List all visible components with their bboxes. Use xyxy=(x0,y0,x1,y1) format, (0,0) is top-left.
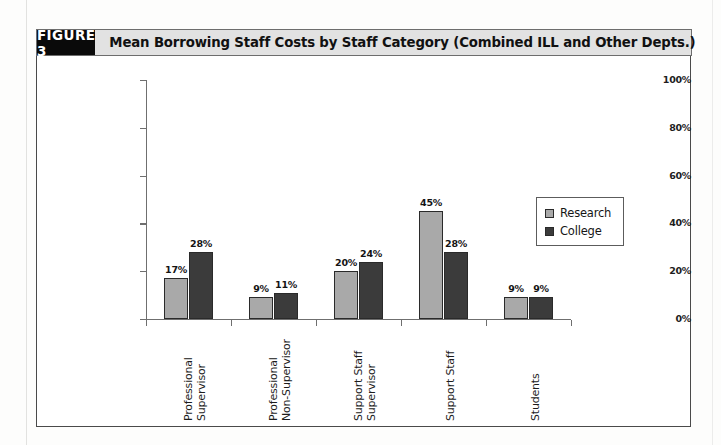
bar-research xyxy=(334,271,358,319)
bar-research xyxy=(504,297,528,319)
x-axis-line xyxy=(146,319,571,320)
legend-swatch-research-icon xyxy=(545,209,554,218)
x-axis-category-label: Professional xyxy=(267,357,280,421)
x-axis-tick-mark xyxy=(231,320,232,326)
y-axis-line xyxy=(146,80,147,320)
x-axis-category-label: Students xyxy=(529,374,542,421)
x-axis-tick-mark xyxy=(316,320,317,326)
legend-item-research: Research xyxy=(545,204,623,222)
y-axis-tick-mark xyxy=(140,176,147,177)
bar-college xyxy=(529,297,553,319)
x-axis-category-label: Professional xyxy=(182,357,195,421)
x-axis-tick-mark xyxy=(486,320,487,326)
legend-item-college: College xyxy=(545,222,623,240)
y-axis-tick-label: 80% xyxy=(635,122,691,133)
legend-swatch-college-icon xyxy=(545,227,554,236)
bar-college xyxy=(359,262,383,319)
bar-college xyxy=(444,252,468,319)
y-axis-tick-mark xyxy=(140,271,147,272)
bar-value-label: 28% xyxy=(436,238,476,249)
bar-research xyxy=(249,297,273,319)
page-scan-edge-right xyxy=(712,0,713,445)
x-axis-category-label: Support Staff xyxy=(444,351,457,421)
x-axis-tick-mark xyxy=(146,320,147,326)
page-scan-edge-left xyxy=(26,0,27,445)
figure-number-badge: FIGURE 3 xyxy=(37,30,95,55)
chart-legend: Research College xyxy=(536,197,624,246)
x-axis-category-label: Support Staff xyxy=(352,351,365,421)
bar-value-label: 11% xyxy=(266,279,306,290)
bar-college xyxy=(274,293,298,319)
bar-chart: 0%20%40%60%80%100% 17%28%9%11%20%24%45%2… xyxy=(36,56,691,427)
x-axis-category-label: Supervisor xyxy=(195,364,208,421)
y-axis-tick-mark xyxy=(140,223,147,224)
y-axis-tick-mark xyxy=(140,128,147,129)
y-axis-tick-mark xyxy=(140,80,147,81)
bar-college xyxy=(189,252,213,319)
x-axis-category-label: Supervisor xyxy=(365,364,378,421)
y-axis-tick-label: 40% xyxy=(635,217,691,228)
x-axis-category-label: Non-Supervisor xyxy=(280,339,293,421)
figure-title: Mean Borrowing Staff Costs by Staff Cate… xyxy=(95,30,695,55)
y-axis-tick-label: 20% xyxy=(635,265,691,276)
y-axis-tick-label: 0% xyxy=(635,313,691,324)
bar-research xyxy=(164,278,188,319)
x-axis-tick-mark xyxy=(401,320,402,326)
bar-value-label: 24% xyxy=(351,248,391,259)
y-axis-tick-label: 100% xyxy=(635,74,691,85)
y-axis-tick-label: 60% xyxy=(635,170,691,181)
figure-header-bar: FIGURE 3 Mean Borrowing Staff Costs by S… xyxy=(36,29,692,56)
x-axis-tick-mark xyxy=(571,320,572,326)
legend-label-research: Research xyxy=(560,206,611,220)
bar-value-label: 45% xyxy=(411,197,451,208)
bar-value-label: 9% xyxy=(521,283,561,294)
bar-research xyxy=(419,211,443,319)
bar-value-label: 28% xyxy=(181,238,221,249)
legend-label-college: College xyxy=(560,224,602,238)
